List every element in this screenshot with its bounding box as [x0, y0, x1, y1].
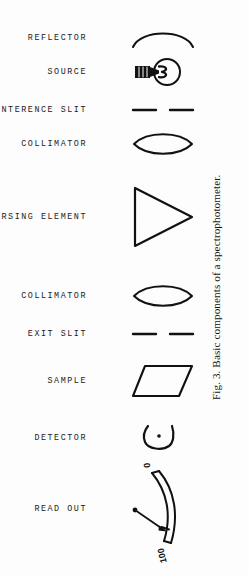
row-label-read-out: READ OUT [34, 504, 87, 514]
symbol-phototube-cup [131, 423, 205, 453]
symbol-sample-parallelogram [131, 363, 205, 399]
row-label-enterence-slit: ENTERENCE SLIT [0, 105, 87, 115]
row-label-reflector: REFLECTOR [28, 33, 87, 43]
figure-spectrophotometer-components: REFLECTOR SOURCE ENTERENCE SLIT [0, 0, 249, 575]
symbol-biconvex-lens-upper [131, 130, 205, 158]
symbol-concave-mirror-arc [131, 25, 205, 51]
symbol-prism-triangle [131, 185, 205, 249]
figure-caption-container: Fig. 3. Basic components of a spectropho… [206, 0, 228, 575]
symbol-slit-pair-entrance [131, 104, 205, 116]
row-label-collimator-upper: COLLIMATOR [21, 139, 87, 149]
meter-scale-max-label: 100 [156, 547, 169, 564]
row-label-source: SOURCE [48, 67, 87, 77]
figure-caption: Fig. 3. Basic components of a spectropho… [210, 175, 222, 400]
symbol-meter-gauge: 0 100 [131, 459, 205, 559]
row-label-collimator-lower: COLLIMATOR [21, 291, 87, 301]
row-label-dispersing-element: DISPERSING ELEMENT [0, 212, 87, 222]
row-label-detector: DETECTOR [34, 433, 87, 443]
meter-scale-min-label: 0 [142, 462, 152, 468]
row-label-sample: SAMPLE [48, 376, 87, 386]
symbol-light-bulb-lamp [131, 55, 205, 89]
symbol-slit-pair-exit [131, 328, 205, 340]
row-label-exit-slit: EXIT SLIT [28, 329, 87, 339]
symbol-biconvex-lens-lower [131, 282, 205, 310]
